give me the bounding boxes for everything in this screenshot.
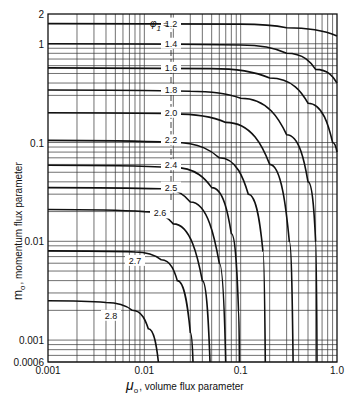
y-tick-label: 2 [38, 9, 44, 20]
y-tick-label: 0.001 [19, 335, 44, 346]
curve-label-2.0: 2.0 [165, 108, 178, 118]
curve-label-2.4: 2.4 [165, 160, 178, 170]
curve-label-2.2: 2.2 [165, 135, 178, 145]
curve-phi-1.2 [48, 24, 337, 36]
curve-phi-2.6 [48, 210, 210, 363]
curve-phi-2.0 [48, 113, 293, 362]
curve-phi-1.6 [48, 68, 337, 152]
x-tick-label: 0.001 [35, 365, 60, 376]
curve-label-1.8: 1.8 [165, 85, 178, 95]
x-axis-label: μo, volume flux parameter [125, 377, 244, 395]
y-tick-label: 0.1 [30, 138, 44, 149]
y-tick-label: 0.01 [25, 236, 45, 247]
phi-equals-label: φ1= [150, 18, 168, 33]
curve-phi-2.5 [48, 188, 226, 362]
x-tick-label: 0.1 [234, 365, 248, 376]
y-axis-label: mo, momentum flux parameter [11, 162, 27, 300]
curve-label-2.5: 2.5 [165, 183, 178, 193]
curve-phi-1.8 [48, 90, 317, 362]
curve-phi-1.4 [48, 44, 337, 83]
curve-label-2.7: 2.7 [129, 256, 142, 266]
phi-equals: = [163, 19, 168, 29]
curve-phi-2.7 [48, 251, 193, 362]
x-tick-label: 1.0 [330, 365, 344, 376]
y-tick-label: 1 [38, 39, 44, 50]
x-tick-label: 0.01 [135, 365, 155, 376]
curve-label-2.8: 2.8 [105, 311, 118, 321]
curve-label-1.6: 1.6 [165, 63, 178, 73]
phi-subscript: 1 [157, 24, 161, 33]
curve-label-2.6: 2.6 [154, 208, 167, 218]
curve-label-1.4: 1.4 [165, 39, 178, 49]
curve-group [48, 24, 337, 362]
curve-labels: 1.21.41.61.82.02.22.42.52.62.72.8 [101, 18, 181, 321]
chart: 1.21.41.61.82.02.22.42.52.62.72.8 210.10… [0, 0, 353, 400]
